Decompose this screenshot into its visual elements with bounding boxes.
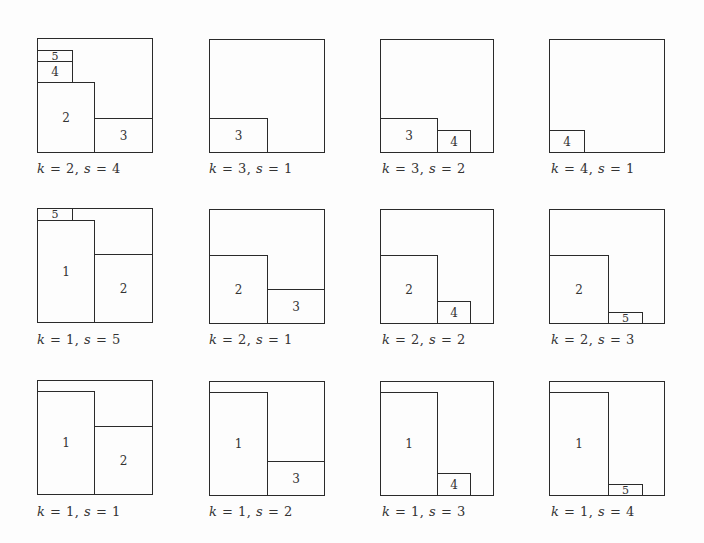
packed-rect-4: 4 [437,473,471,496]
packed-rect-3: 3 [380,118,438,153]
packed-rect-2: 2 [209,255,268,324]
packed-rect-3: 3 [94,118,153,153]
panel-caption: k = 2, s = 2 [382,332,466,347]
packed-rect-1: 1 [37,391,95,495]
packed-rect-3: 3 [209,118,268,153]
packed-rect-3: 3 [267,461,325,496]
packed-rect-3: 3 [267,289,325,324]
panel-caption: k = 4, s = 1 [551,161,635,176]
packed-rect-4: 4 [437,301,471,324]
packed-rect-5: 5 [608,484,643,496]
panel-caption: k = 1, s = 1 [37,504,121,519]
packed-rect-4: 4 [37,61,73,83]
packed-rect-4: 4 [437,130,471,153]
packed-rect-2: 2 [380,255,438,324]
packed-rect-1: 1 [209,392,268,496]
panel-caption: k = 2, s = 1 [209,332,293,347]
panel-caption: k = 3, s = 2 [382,161,466,176]
packed-rect-2: 2 [37,82,95,153]
packed-rect-4: 4 [549,130,585,153]
panel-caption: k = 2, s = 3 [551,332,635,347]
packed-rect-1: 1 [37,220,95,323]
panel-caption: k = 1, s = 4 [551,504,635,519]
packed-rect-1: 1 [380,392,438,496]
panel-caption: k = 2, s = 4 [37,161,121,176]
panel-caption: k = 1, s = 5 [37,332,121,347]
packed-rect-2: 2 [94,254,153,323]
packed-rect-5: 5 [608,312,643,324]
packed-rect-2: 2 [549,255,609,324]
packed-rect-1: 1 [549,392,609,496]
panel-caption: k = 1, s = 3 [382,504,466,519]
panel-caption: k = 1, s = 2 [209,504,293,519]
panel-caption: k = 3, s = 1 [209,161,293,176]
packed-rect-2: 2 [94,426,153,495]
